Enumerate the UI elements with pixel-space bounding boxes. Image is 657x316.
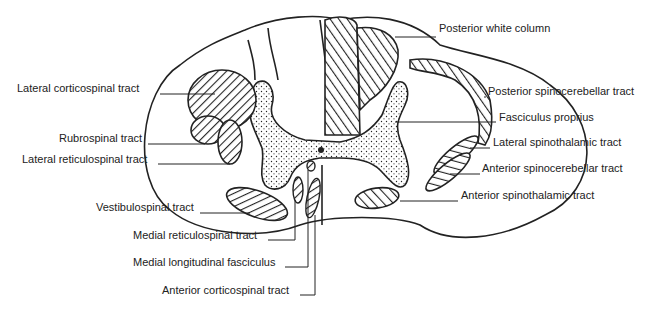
label-lateral-spinothalamic: Lateral spinothalamic tract: [493, 136, 621, 148]
label-lateral-corticospinal: Lateral corticospinal tract: [17, 82, 139, 94]
label-posterior-white-column: Posterior white column: [439, 22, 550, 34]
label-anterior-spinocerebellar: Anterior spinocerebellar tract: [482, 162, 623, 174]
label-medial-reticulospinal: Medial reticulospinal tract: [133, 229, 257, 241]
label-medial-longitudinal-fasciculus: Medial longitudinal fasciculus: [133, 256, 275, 268]
label-anterior-corticospinal: Anterior corticospinal tract: [162, 284, 289, 296]
medial-reticulospinal-region: [293, 177, 303, 203]
label-rubrospinal: Rubrospinal tract: [59, 132, 142, 144]
posterior-spinocerebellar-region: [410, 59, 492, 145]
lateral-reticulospinal-region: [218, 120, 242, 164]
label-fasciculus-proprius: Fasciculus proprius: [499, 111, 594, 123]
anterior-spinothalamic-region: [354, 185, 400, 211]
label-vestibulospinal: Vestibulospinal tract: [96, 201, 194, 213]
medial-longitudinal-region: [307, 161, 315, 171]
label-lateral-reticulospinal: Lateral reticulospinal tract: [22, 153, 147, 165]
label-posterior-spinocerebellar: Posterior spinocerebellar tract: [488, 85, 634, 97]
anterior-corticospinal-region: [303, 177, 323, 219]
posterior-white-column-region: [325, 17, 360, 135]
label-anterior-spinothalamic: Anterior spinothalamic tract: [461, 189, 594, 201]
